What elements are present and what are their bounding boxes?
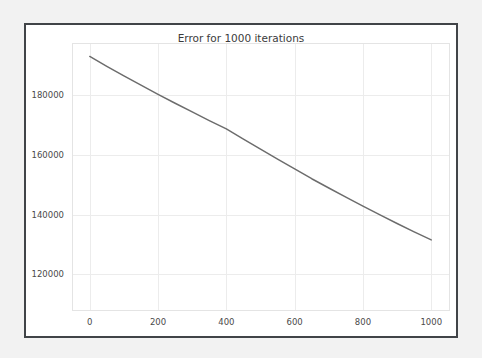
screenshot-root: Error for 1000 iterations 02004006008001… [0, 0, 482, 358]
chart-title: Error for 1000 iterations [178, 32, 305, 44]
y-tick-label: 120000 [32, 269, 64, 279]
x-tick-label: 0 [87, 317, 92, 327]
x-tick-label: 800 [355, 317, 371, 327]
y-tick-label: 160000 [32, 150, 64, 160]
figure-frame: Error for 1000 iterations 02004006008001… [24, 23, 458, 338]
y-tick-label: 140000 [32, 210, 64, 220]
x-tick-label: 400 [218, 317, 234, 327]
line-chart: Error for 1000 iterations 02004006008001… [26, 25, 456, 336]
figure-canvas: Error for 1000 iterations 02004006008001… [26, 25, 456, 336]
x-tick-label: 1000 [420, 317, 442, 327]
y-tick-label: 180000 [32, 90, 64, 100]
x-tick-label: 600 [287, 317, 303, 327]
x-tick-label: 200 [150, 317, 166, 327]
